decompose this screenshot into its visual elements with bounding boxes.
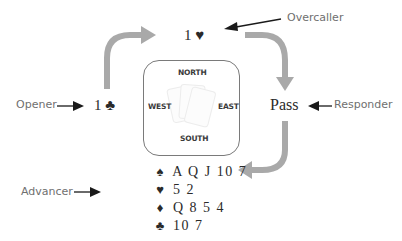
club-icon: ♣ [152,217,168,235]
spade-cards: A Q J 10 7 [172,164,247,179]
heart-cards: 5 2 [173,182,195,197]
direction-south: SOUTH [180,134,208,143]
diamond-cards: Q 8 5 4 [173,200,225,215]
flow-arrow-overcaller-to-responder [245,35,294,91]
overcaller-bid: 1 ♥ [184,27,204,44]
diamond-icon: ♦ [152,199,168,217]
pointer-arrow-opener [57,101,84,111]
pointer-arrow-responder [308,101,332,111]
direction-east: EAST [218,102,239,111]
advancer-label: Advancer [21,185,73,198]
responder-bid: Pass [270,96,298,114]
direction-west: WEST [148,102,171,111]
pointer-arrow-advancer [74,187,101,197]
spade-icon: ♠ [152,163,168,181]
hand-row-clubs: ♣ 10 7 [152,217,247,235]
hand-row-hearts: ♥ 5 2 [152,181,247,199]
heart-icon: ♥ [152,181,168,199]
opener-label: Opener [16,98,57,111]
club-cards: 10 7 [173,218,204,233]
hand-row-diamonds: ♦ Q 8 5 4 [152,199,247,217]
overcaller-label: Overcaller [287,11,343,24]
responder-label: Responder [334,98,393,111]
opener-bid: 1 ♣ [94,97,115,114]
hand-row-spades: ♠ A Q J 10 7 [152,163,247,181]
direction-north: NORTH [178,68,206,77]
pointer-arrow-overcaller [224,19,281,31]
advancer-hand: ♠ A Q J 10 7 ♥ 5 2 ♦ Q 8 5 4 ♣ 10 7 [152,163,247,235]
